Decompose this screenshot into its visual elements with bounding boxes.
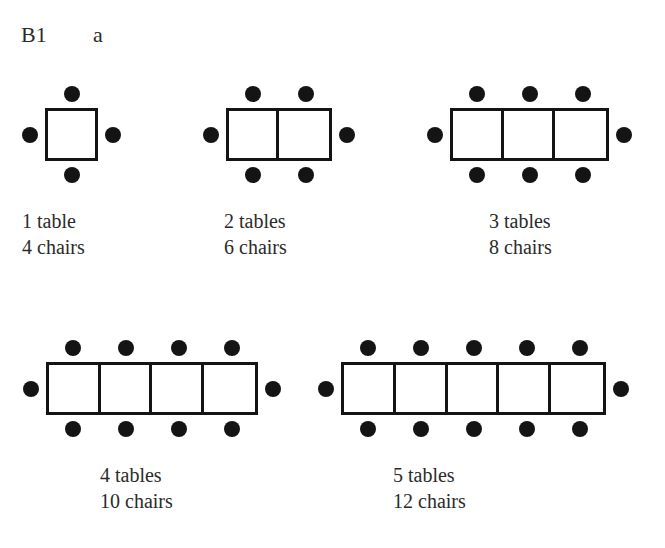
caption-chairs-line: 8 chairs xyxy=(489,234,552,260)
table-square xyxy=(499,365,551,412)
chair-dot-top xyxy=(245,86,261,102)
chair-dot-top xyxy=(522,86,538,102)
chair-dot-top xyxy=(572,340,588,356)
exercise-part-letter: a xyxy=(93,24,103,46)
exercise-code: B1 xyxy=(21,24,47,46)
caption-chairs-line: 4 chairs xyxy=(22,234,85,260)
chair-dot-top xyxy=(298,86,314,102)
table-square xyxy=(504,111,555,158)
caption-chairs-line: 12 chairs xyxy=(393,488,466,514)
table-square xyxy=(551,365,603,412)
table-square xyxy=(279,111,329,158)
table-square xyxy=(344,365,396,412)
table-square xyxy=(49,365,101,412)
chair-dot-left xyxy=(203,127,219,143)
table-row xyxy=(46,362,258,415)
table-square xyxy=(453,111,504,158)
chair-dot-bottom xyxy=(171,421,187,437)
caption-chairs-line: 10 chairs xyxy=(100,488,173,514)
chair-dot-bottom xyxy=(118,421,134,437)
caption-tables-line: 1 table xyxy=(22,208,85,234)
figure-caption: 2 tables6 chairs xyxy=(224,208,287,260)
chair-dot-bottom xyxy=(413,421,429,437)
worksheet-page: B1 a 1 table4 chairs2 tables6 chairs3 ta… xyxy=(0,0,665,548)
table-square xyxy=(555,111,606,158)
table-row xyxy=(45,108,98,161)
figure-caption: 1 table4 chairs xyxy=(22,208,85,260)
chair-dot-bottom xyxy=(64,167,80,183)
chair-dot-top xyxy=(469,86,485,102)
chair-dot-top xyxy=(224,340,240,356)
chair-dot-bottom xyxy=(298,167,314,183)
chair-dot-bottom xyxy=(360,421,376,437)
chair-dot-bottom xyxy=(522,167,538,183)
chair-dot-top xyxy=(466,340,482,356)
table-square xyxy=(229,111,279,158)
caption-tables-line: 5 tables xyxy=(393,462,466,488)
table-square xyxy=(101,365,153,412)
table-row xyxy=(226,108,332,161)
table-square xyxy=(48,111,95,158)
chair-dot-bottom xyxy=(469,167,485,183)
chair-dot-bottom xyxy=(245,167,261,183)
chair-dot-bottom xyxy=(519,421,535,437)
chair-dot-top xyxy=(65,340,81,356)
chair-dot-top xyxy=(360,340,376,356)
chair-dot-bottom xyxy=(224,421,240,437)
chair-dot-top xyxy=(118,340,134,356)
chair-dot-top xyxy=(519,340,535,356)
chair-dot-top xyxy=(413,340,429,356)
chair-dot-right xyxy=(265,381,281,397)
figure-caption: 4 tables10 chairs xyxy=(100,462,173,514)
table-square xyxy=(396,365,448,412)
chair-dot-right xyxy=(105,127,121,143)
table-square xyxy=(152,365,204,412)
chair-dot-left xyxy=(318,381,334,397)
chair-dot-bottom xyxy=(575,167,591,183)
caption-tables-line: 2 tables xyxy=(224,208,287,234)
chair-dot-bottom xyxy=(466,421,482,437)
chair-dot-top xyxy=(64,86,80,102)
chair-dot-right xyxy=(613,381,629,397)
figure-caption: 3 tables8 chairs xyxy=(489,208,552,260)
chair-dot-right xyxy=(339,127,355,143)
table-row xyxy=(450,108,609,161)
chair-dot-left xyxy=(22,127,38,143)
caption-tables-line: 4 tables xyxy=(100,462,173,488)
caption-tables-line: 3 tables xyxy=(489,208,552,234)
chair-dot-left xyxy=(427,127,443,143)
chair-dot-bottom xyxy=(572,421,588,437)
figure-caption: 5 tables12 chairs xyxy=(393,462,466,514)
table-row xyxy=(341,362,606,415)
chair-dot-top xyxy=(575,86,591,102)
chair-dot-bottom xyxy=(65,421,81,437)
chair-dot-right xyxy=(616,127,632,143)
chair-dot-left xyxy=(23,381,39,397)
table-square xyxy=(204,365,256,412)
caption-chairs-line: 6 chairs xyxy=(224,234,287,260)
table-square xyxy=(448,365,500,412)
chair-dot-top xyxy=(171,340,187,356)
